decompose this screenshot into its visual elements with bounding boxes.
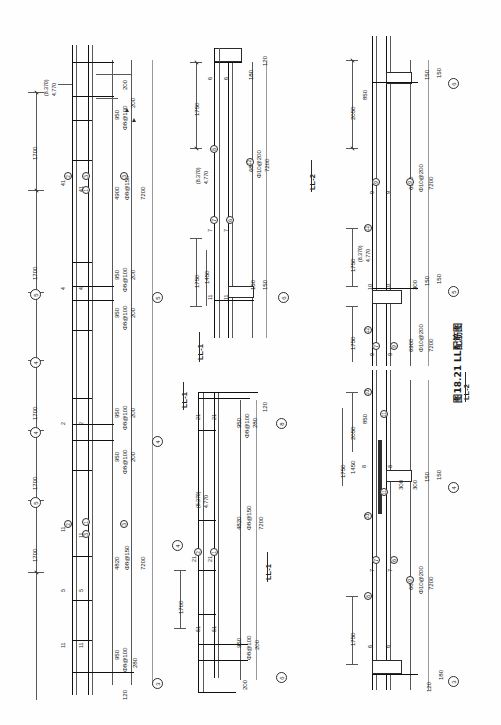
dim-extension [346,392,358,393]
section-cap [214,62,242,63]
dim-7200c: 7200 [264,159,270,172]
dim-1750-r4: 1750 [350,633,356,646]
bar-label-5b: 5 [79,589,84,592]
ll1-stub [198,660,248,661]
stirrup-d: Φ8@100 [122,406,128,430]
bar-label-11c: 11 [61,643,66,648]
dim-extension [190,238,202,239]
dim-2050b: 2050 [350,427,356,440]
bar-mark-3[interactable]: 3 [82,172,90,180]
ll1-top-cap [198,392,258,393]
bar-label-91d: 9 [388,353,393,356]
ll1-wall-left [198,392,199,692]
dim-7200-r2: 7200 [428,339,434,352]
dim-extension [346,596,358,597]
slab-stub [72,470,92,471]
dimension-1700: 1700 [32,147,38,160]
bar-mark-6[interactable]: 6 [226,216,234,224]
dim-200-ll1: 200 [254,640,260,650]
bar-mark-7[interactable]: 7 [210,216,218,224]
section-underline [465,372,466,402]
grid-bubble-3[interactable]: 3 [152,678,163,689]
grid-bubble-4e[interactable]: 4 [448,482,459,493]
dim-120b: 120 [262,56,268,66]
dim-7200b: 7200 [140,557,146,570]
bar-label-61: 6 [208,77,213,80]
stirrup-f: Φ8@100 [122,648,128,672]
grid-bubble-4c[interactable]: 4 [152,436,163,447]
grid-bubble-5b[interactable]: 5 [30,497,41,508]
section-dim-chain-2 [196,238,197,306]
dim-120-r: 120 [426,682,432,692]
bar-mark-7b[interactable]: 7 [372,342,380,350]
bar-mark-12c[interactable]: 12 [364,326,372,334]
bar-mark-2[interactable]: 2 [64,172,72,180]
bar-label-91b: 9 [386,191,391,194]
dim-1750-r: 1750 [350,259,356,272]
bar-mark-ll1-1[interactable]: 1 [210,548,218,556]
bar-mark-1b[interactable]: 1 [82,518,90,526]
grid-bubble-3b[interactable]: 3 [448,676,459,687]
grid-bubble-5[interactable]: 5 [30,289,41,300]
dim-180: 180 [248,70,254,80]
bar-mark-9b[interactable]: 9 [372,178,380,186]
section-underline [311,160,312,192]
dim-7200: 7200 [140,187,146,200]
bar-mark-6d[interactable]: 6 [390,556,398,564]
bar-mark-8b[interactable]: 8 [364,592,372,600]
ll1-wall-right [214,392,215,678]
grid-bubble-5c[interactable]: 5 [152,292,163,303]
grid-bubble-4b[interactable]: 4 [30,427,41,438]
ll2-wall-b [386,36,387,366]
elevation-leader [58,84,72,85]
bar-mark-3d[interactable]: 3 [120,520,128,528]
slab-stub [72,300,114,301]
bar-mark-11b[interactable]: 11 [380,410,388,418]
bar-mark-3c[interactable]: 3 [120,172,128,180]
ll1-wall-right-inner [218,392,219,678]
bar-mark-7c[interactable]: 7 [372,556,380,564]
grid-bubble-6c[interactable]: 6 [448,78,459,89]
dim-extension [174,570,186,571]
dim-850b: 850 [362,414,368,424]
bar-label-71b: 7 [224,229,229,232]
stirrup-6900b: Φ10@200 [418,324,424,352]
grid-bubble-8[interactable]: 8 [276,418,287,429]
bar-mark-12b[interactable]: 12 [364,224,372,232]
grid-bubble-6b[interactable]: 6 [276,672,287,683]
bar-mark-8[interactable]: 8 [210,145,218,153]
bar-mark-10b[interactable]: 10 [364,512,372,520]
bar-mark-9[interactable]: 9 [406,178,414,186]
drawing-sheet: 1700 1700 1700 1700 1700 (8.370) 4.770 5… [0,0,501,725]
ll1-dim-line [256,400,257,680]
grid-bubble-5d[interactable]: 5 [448,286,459,297]
dim-1750b: 1750 [194,275,200,288]
dim-4900: 4900 [114,187,120,200]
grid-bubble-4[interactable]: 4 [30,357,41,368]
bar-label-71d: 7 [388,569,393,572]
bar-mark-12[interactable]: 12 [246,158,254,166]
bar-mark-ll1-2[interactable]: 2 [194,548,202,556]
dim-120: 120 [122,690,128,700]
bar-mark-11c[interactable]: 11 [380,488,388,496]
dim-950-ll1b: 950 [236,638,242,648]
section-base [214,300,254,301]
dim-150b: 150 [262,280,268,290]
wall-line-outer-right [88,45,89,695]
bar-mark-10[interactable]: 10 [364,388,372,396]
ll2-dim-line-2 [428,380,429,690]
dim-150-r6: 150 [436,470,442,480]
bar-mark-9d[interactable]: 9 [406,576,414,584]
bar-mark-9c[interactable]: 9 [390,342,398,350]
elev-lo-4: 4.770 [366,249,371,262]
dim-6900b: 6900 [408,339,414,352]
rebar-line-top [112,60,113,685]
grid-bubble-4d[interactable]: 4 [172,540,183,551]
ll2-wall-a-in [376,36,377,366]
dim-280: 280 [132,658,138,668]
dim-tick [350,146,354,150]
grid-bubble-6[interactable]: 6 [278,292,289,303]
bar-label-81: 8 [362,465,367,468]
bar-label-71c: 7 [370,569,375,572]
dim-1750: 1750 [194,103,200,116]
